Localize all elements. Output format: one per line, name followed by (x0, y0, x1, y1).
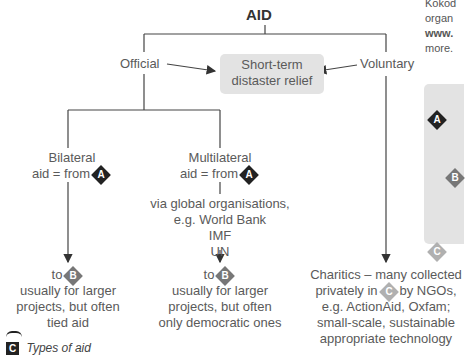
badge-c-icon: C (379, 282, 399, 302)
voluntary-label: Voluntary (360, 56, 414, 72)
side-line2: organ (425, 11, 456, 26)
multilateral-to-line1: usually for larger (150, 283, 290, 299)
figure-caption: C Types of aid (6, 331, 91, 356)
legend-badge-c-icon: C (427, 242, 447, 262)
bilateral-line1: Bilateral (22, 150, 122, 166)
bilateral-to-line3: tied aid (8, 315, 128, 331)
short-term-relief-box: Short-term distaster relief (220, 54, 324, 94)
legend-badge-a-icon: A (427, 110, 447, 130)
charities-line3: e.g. ActionAid, Oxfam; (310, 299, 462, 315)
badge-a-icon: A (91, 165, 111, 185)
official-label: Official (120, 56, 160, 72)
caption-text: Types of aid (26, 341, 90, 355)
side-line3: www. (425, 26, 456, 41)
to-label: to (204, 267, 215, 282)
via-line2: e.g. World Bank (150, 212, 290, 228)
via-organisations: via global organisations, e.g. World Ban… (150, 196, 290, 260)
caption-c-icon: C (6, 342, 19, 355)
badge-a-icon: A (239, 165, 259, 185)
bilateral-node: Bilateral aid = fromA (22, 150, 122, 182)
via-line1: via global organisations, (150, 196, 290, 212)
charities-line5: appropriate technology (310, 331, 462, 347)
multilateral-line2: aid = from (180, 166, 238, 181)
bilateral-to-line2: projects, but often (8, 299, 128, 315)
caption-roof-icon (6, 331, 22, 337)
bilateral-recipient: toB usually for larger projects, but oft… (8, 267, 128, 331)
side-text: Kokod organ www. more. (425, 0, 456, 56)
short-term-line2: distaster relief (220, 73, 324, 89)
multilateral-recipient: toB usually for larger projects, but oft… (150, 267, 290, 331)
side-line4: more. (425, 41, 456, 56)
charities-line1: Charitics – many collected (310, 267, 462, 283)
multilateral-to-line3: only democratic ones (150, 315, 290, 331)
bilateral-line2: aid = from (32, 166, 90, 181)
short-term-line1: Short-term (220, 57, 324, 73)
charities-node: Charitics – many collected privately inC… (310, 267, 462, 347)
to-label: to (52, 267, 63, 282)
via-line3: IMF (150, 228, 290, 244)
charities-line2-post: by NGOs, (400, 283, 457, 298)
via-line4: UN (150, 244, 290, 260)
multilateral-node: Multilateral aid = fromA (170, 150, 270, 182)
side-line1: Kokod (425, 0, 456, 11)
legend-panel: A B C (424, 84, 464, 244)
multilateral-line1: Multilateral (170, 150, 270, 166)
charities-line4: small-scale, sustainable (310, 315, 462, 331)
diagram-title: AID (246, 6, 272, 23)
multilateral-to-line2: projects, but often (150, 299, 290, 315)
legend-badge-b-icon: B (446, 168, 466, 188)
bilateral-to-line1: usually for larger (8, 283, 128, 299)
charities-line2-pre: privately in (315, 283, 377, 298)
